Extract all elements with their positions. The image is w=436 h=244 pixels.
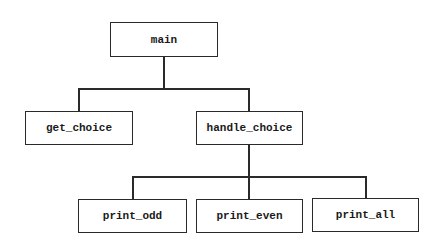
connector-to-get-choice bbox=[78, 88, 80, 111]
connector-handle-choice-down bbox=[248, 144, 250, 199]
connector-to-handle-choice bbox=[248, 88, 250, 111]
connector-level2-bar bbox=[78, 88, 250, 90]
connector-level3-bar bbox=[132, 176, 366, 178]
connector-to-print-all bbox=[365, 176, 367, 199]
hierarchy-diagram: main get_choice handle_choice print_odd … bbox=[0, 0, 436, 244]
node-handle-choice: handle_choice bbox=[196, 111, 303, 145]
connector-to-print-odd bbox=[132, 176, 134, 199]
node-print-even: print_even bbox=[196, 199, 303, 233]
connector-main-down bbox=[163, 56, 165, 89]
node-get-choice: get_choice bbox=[25, 111, 133, 145]
node-main: main bbox=[110, 22, 218, 57]
node-print-odd: print_odd bbox=[78, 199, 187, 233]
node-print-all: print_all bbox=[312, 198, 419, 232]
